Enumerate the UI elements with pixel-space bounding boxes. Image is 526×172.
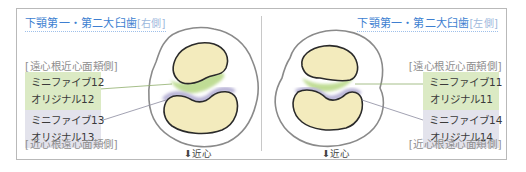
right-upper-line2: オリジナル11 [429,91,493,108]
right-mesial-direction: ⬇近心 [322,146,350,160]
left-upper-line1: ミニファイブ12 [31,74,95,91]
left-mesial-direction: ⬇近心 [184,146,212,160]
right-upper-bracket-label: [遠心根近心面頬側] [409,58,502,73]
left-upper-line2: オリジナル12 [31,91,95,108]
left-upper-bracket-label: [遠心根近心面頬側] [25,58,118,73]
left-lower-line1: ミニファイブ13 [31,112,95,129]
right-lower-line1: ミニファイブ14 [429,112,493,129]
right-upper-line1: ミニファイブ11 [429,74,493,91]
right-upper-label-box: ミニファイブ11 オリジナル11 [423,72,499,110]
right-tooth-diagram [275,30,423,146]
left-lower-bracket-label: [近心根遠心面頬側] [25,136,118,151]
right-lower-bracket-label: [近心根遠心面頬側] [409,136,502,151]
left-upper-label-box: ミニファイブ12 オリジナル12 [25,72,101,110]
left-tooth-diagram [100,28,258,147]
